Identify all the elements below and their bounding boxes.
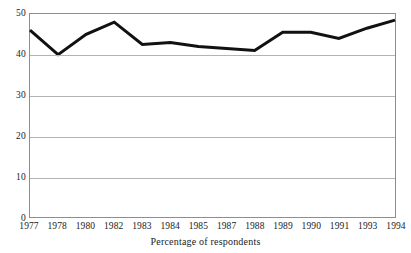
data-series-polyline xyxy=(30,20,395,55)
y-tick-label-20: 20 xyxy=(2,131,26,141)
gridline-20 xyxy=(30,137,395,138)
x-tick-label-1994: 1994 xyxy=(379,220,411,232)
gridline-30 xyxy=(30,96,395,97)
x-axis-caption: Percentage of respondents xyxy=(0,236,411,248)
y-tick-label-10: 10 xyxy=(2,172,26,182)
y-axis: 50403020100 xyxy=(0,0,26,253)
gridline-40 xyxy=(30,55,395,56)
y-tick-label-30: 30 xyxy=(2,90,26,100)
gridline-10 xyxy=(30,178,395,179)
y-tick-label-40: 40 xyxy=(2,49,26,59)
series-line xyxy=(30,14,395,217)
x-axis: 1977197819801982198319841985198719881989… xyxy=(29,220,396,234)
plot-area xyxy=(29,13,396,218)
line-chart-figure: 50403020100 1977197819801982198319841985… xyxy=(0,0,411,253)
y-tick-label-50: 50 xyxy=(2,8,26,18)
